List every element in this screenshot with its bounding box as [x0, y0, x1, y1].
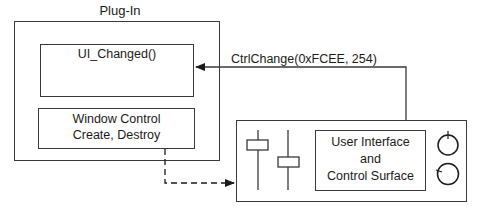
plugin-title: Plug-In: [90, 3, 150, 19]
ui-inner-line1: User Interface: [315, 134, 426, 150]
ui-inner-line3: Control Surface: [315, 168, 426, 184]
ctrlchange-label: CtrlChange(0xFCEE, 254): [231, 51, 377, 67]
ui-inner-line2: and: [315, 151, 426, 167]
window-control-line1: Window Control: [38, 111, 195, 127]
ui-changed-label: UI_Changed(): [40, 46, 194, 62]
window-control-line2: Create, Destroy: [38, 127, 195, 143]
ctrlchange-arrow: [196, 67, 406, 120]
